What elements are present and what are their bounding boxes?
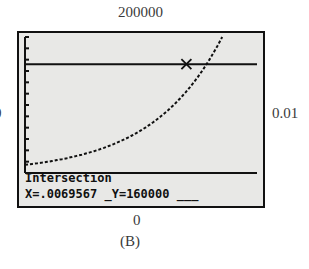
intersection-values: X=.0069567 _Y=160000 ___ [25,187,198,201]
calculator-screen: Intersection X=.0069567 _Y=160000 ___ [17,31,265,208]
curve [25,37,222,165]
intersection-title: Intersection [25,171,112,185]
x-max-label: 0.01 [272,105,298,122]
y-min-label: 0 [133,212,141,229]
x-min-label: 0 [0,105,2,122]
figure-caption: (B) [120,233,140,250]
y-max-label: 200000 [118,4,163,21]
